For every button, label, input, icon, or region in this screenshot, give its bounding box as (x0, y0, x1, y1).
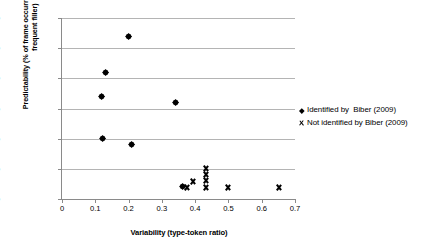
scatter-chart-figure: Predictability (% of frame occurrences w… (0, 0, 426, 246)
x-tick-label: 0.6 (250, 204, 274, 213)
y-tick-mark (58, 109, 62, 110)
x-tick-mark (162, 199, 163, 203)
x-tick-mark (129, 199, 130, 203)
x-marker-icon (298, 117, 307, 128)
data-point-x (186, 187, 187, 188)
data-point-x (206, 180, 207, 181)
gridline (62, 169, 295, 170)
y-tick-mark (58, 48, 62, 49)
y-tick-mark (58, 18, 62, 19)
data-point-diamond (102, 96, 103, 97)
x-axis-title: Variability (type-token ratio) (62, 228, 296, 237)
gridline (62, 18, 295, 19)
data-point-x (206, 187, 207, 188)
gridline (62, 78, 295, 79)
y-tick-mark (58, 78, 62, 79)
gridline (62, 109, 295, 110)
x-tick-mark (262, 199, 263, 203)
diamond-marker-icon (298, 104, 307, 115)
x-tick-mark (195, 199, 196, 203)
x-tick-label: 0.1 (83, 204, 107, 213)
gridline (62, 139, 295, 140)
x-tick-label: 0.3 (150, 204, 174, 213)
data-point-x (206, 175, 207, 176)
data-point-diamond (103, 139, 104, 140)
legend-label: Not identified by Biber (2009) (307, 118, 408, 127)
data-point-x (278, 187, 279, 188)
plot-area: 0%5%10%15%20%25%30% 00.10.20.30.40.50.60… (62, 18, 295, 199)
legend-label: Identified by Biber (2009) (307, 105, 396, 114)
y-tick-mark (58, 169, 62, 170)
gridline (62, 48, 295, 49)
legend-item-identified: Identified by Biber (2009) (298, 103, 424, 116)
data-point-diamond (131, 145, 132, 146)
x-tick-label: 0.5 (216, 204, 240, 213)
data-point-diamond (106, 72, 107, 73)
data-point-diamond (175, 102, 176, 103)
x-tick-label: 0.4 (183, 204, 207, 213)
data-point-x (206, 169, 207, 170)
x-tick-mark (95, 199, 96, 203)
data-point-x (192, 181, 193, 182)
data-point-x (227, 187, 228, 188)
y-axis-title: Predictability (% of frame occurrences w… (21, 0, 39, 120)
y-tick-mark (58, 139, 62, 140)
x-tick-label: 0.7 (283, 204, 307, 213)
data-point-diamond (129, 36, 130, 37)
legend-item-not-identified: Not identified by Biber (2009) (298, 116, 424, 129)
x-tick-mark (295, 199, 296, 203)
x-tick-label: 0.2 (117, 204, 141, 213)
x-tick-label: 0 (50, 204, 74, 213)
x-tick-mark (62, 199, 63, 203)
chart-legend: Identified by Biber (2009) Not identifie… (298, 103, 424, 129)
x-tick-mark (228, 199, 229, 203)
